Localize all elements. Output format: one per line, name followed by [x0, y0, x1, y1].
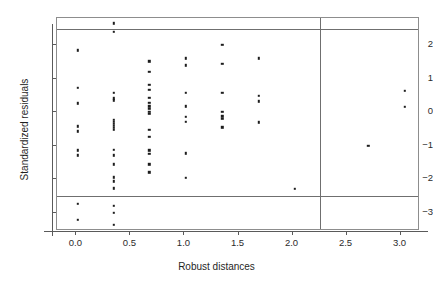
- reference-line-horizontal: [57, 29, 418, 30]
- data-point: [184, 152, 186, 154]
- y-axis-tick-label: −3: [387, 207, 433, 217]
- data-point: [76, 219, 78, 221]
- data-point: [113, 176, 115, 178]
- y-axis-tick: [52, 111, 56, 112]
- data-point: [113, 31, 115, 33]
- y-axis-tick-label: 1: [387, 73, 433, 83]
- y-axis-tick: [52, 145, 56, 146]
- x-axis-tick: [292, 231, 293, 235]
- y-axis-tick-label: 0: [387, 107, 433, 117]
- x-axis-tick-label: 2.5: [339, 238, 352, 248]
- data-point: [113, 91, 115, 93]
- data-point: [113, 180, 115, 182]
- data-point: [76, 49, 78, 51]
- y-axis-tick: [52, 44, 56, 45]
- data-point: [184, 115, 186, 117]
- data-point: [148, 96, 150, 98]
- y-axis-tick: [52, 178, 56, 179]
- plot-area: [56, 17, 419, 230]
- x-axis-tick: [183, 231, 184, 235]
- x-axis-tick-label: 3.0: [393, 238, 406, 248]
- data-point: [148, 89, 150, 91]
- data-point: [148, 83, 150, 85]
- x-axis-tick-label: 1.5: [231, 238, 244, 248]
- data-point: [148, 113, 150, 115]
- data-point: [76, 130, 78, 132]
- x-axis-tick-label: 1.0: [177, 238, 190, 248]
- data-point: [184, 120, 186, 122]
- x-axis-tick: [238, 231, 239, 235]
- data-point: [148, 60, 150, 62]
- data-point: [76, 125, 78, 127]
- x-axis-title: Robust distances: [0, 261, 433, 272]
- x-axis-tick: [400, 231, 401, 235]
- x-axis-tick-label: 2.0: [285, 238, 298, 248]
- data-point: [113, 99, 115, 101]
- data-point: [293, 187, 295, 189]
- data-point: [113, 154, 115, 156]
- data-point: [148, 149, 150, 151]
- data-point: [258, 57, 260, 59]
- data-point: [367, 145, 369, 147]
- x-axis-tick: [346, 231, 347, 235]
- data-point: [258, 100, 260, 102]
- data-point: [221, 92, 223, 94]
- y-axis-title: Standardized residuals: [19, 60, 30, 200]
- data-point: [184, 64, 186, 66]
- data-point: [258, 95, 260, 97]
- data-point: [184, 105, 186, 107]
- data-point: [113, 204, 115, 206]
- x-axis-tick-label: 0.5: [123, 238, 136, 248]
- data-point: [184, 57, 186, 59]
- data-point: [113, 129, 115, 131]
- data-point: [113, 149, 115, 151]
- scatter-plot-figure: Standardized residuals Robust distances …: [0, 0, 433, 292]
- data-point: [148, 171, 150, 173]
- data-point: [113, 224, 115, 226]
- data-point: [76, 203, 78, 205]
- data-point: [113, 22, 115, 24]
- data-point: [76, 149, 78, 151]
- data-point: [148, 136, 150, 138]
- data-point: [148, 128, 150, 130]
- y-axis-tick-label: −2: [387, 173, 433, 183]
- data-point: [258, 121, 260, 123]
- reference-line-horizontal: [57, 196, 418, 197]
- data-point: [148, 153, 150, 155]
- data-point: [113, 187, 115, 189]
- x-axis-line: [44, 231, 428, 232]
- x-axis-tick: [75, 231, 76, 235]
- y-axis-line: [52, 24, 53, 236]
- reference-line-vertical: [320, 18, 321, 229]
- data-point: [148, 70, 150, 72]
- data-point: [113, 211, 115, 213]
- data-point: [148, 163, 150, 165]
- data-point: [221, 118, 223, 120]
- data-point: [221, 63, 223, 65]
- y-axis-tick: [52, 212, 56, 213]
- data-point: [76, 86, 78, 88]
- data-point: [221, 110, 223, 112]
- x-axis-tick-label: 0.0: [69, 238, 82, 248]
- data-point: [113, 163, 115, 165]
- y-axis-tick-label: −1: [387, 140, 433, 150]
- data-point: [148, 102, 150, 104]
- data-point: [76, 154, 78, 156]
- data-point: [76, 102, 78, 104]
- data-point: [404, 89, 406, 91]
- x-axis-tick: [129, 231, 130, 235]
- y-axis-tick: [52, 78, 56, 79]
- data-point: [221, 44, 223, 46]
- data-point: [184, 177, 186, 179]
- y-axis-tick-label: 2: [387, 40, 433, 50]
- data-point: [184, 92, 186, 94]
- data-point: [221, 126, 223, 128]
